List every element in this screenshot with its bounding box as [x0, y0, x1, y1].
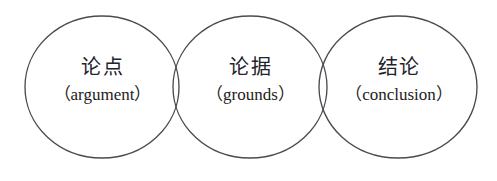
diagram-canvas: 论点 （argument） 论据 （grounds） 结论 （conclusio…: [0, 0, 497, 181]
node-label-argument: 论点 （argument）: [25, 57, 180, 103]
node-label-conclusion-en: （conclusion）: [320, 86, 478, 103]
node-label-argument-cn: 论点: [25, 57, 180, 77]
node-label-grounds-en: （grounds）: [173, 86, 328, 103]
node-label-argument-en: （argument）: [25, 86, 180, 103]
node-label-conclusion-cn: 结论: [320, 57, 478, 77]
node-label-grounds-cn: 论据: [173, 57, 328, 77]
node-label-grounds: 论据 （grounds）: [173, 57, 328, 103]
node-label-conclusion: 结论 （conclusion）: [320, 57, 478, 103]
